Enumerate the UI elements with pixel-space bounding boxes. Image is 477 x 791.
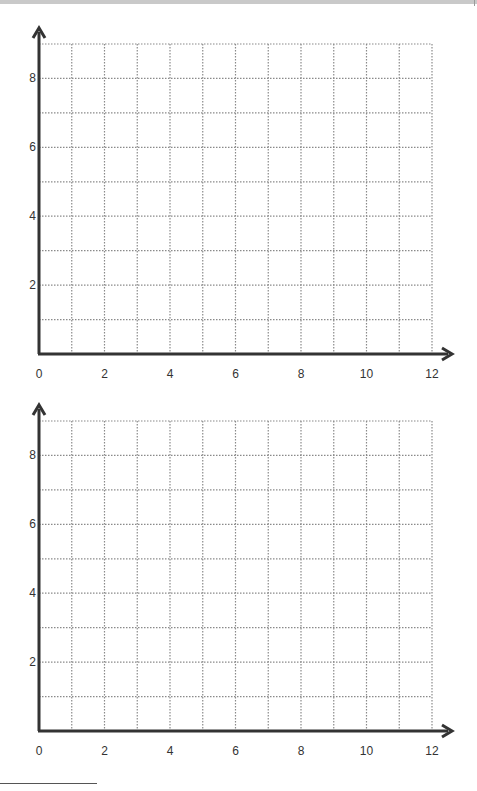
tick-labels: 0246810122468 xyxy=(29,448,439,758)
y-tick-label: 4 xyxy=(29,586,36,600)
x-tick-label: 4 xyxy=(167,744,174,758)
grid-lines xyxy=(39,421,432,731)
footnote-rule xyxy=(0,783,97,784)
x-tick-label: 2 xyxy=(101,744,108,758)
x-tick-label: 10 xyxy=(360,744,374,758)
x-tick-label: 8 xyxy=(298,744,305,758)
x-tick-label: 6 xyxy=(232,744,239,758)
x-tick-label: 12 xyxy=(425,744,439,758)
x-tick-label: 0 xyxy=(36,744,43,758)
y-tick-label: 2 xyxy=(29,655,36,669)
y-tick-label: 8 xyxy=(29,448,36,462)
y-tick-label: 6 xyxy=(29,517,36,531)
axes xyxy=(33,405,452,737)
coordinate-grid-bottom: 0246810122468 xyxy=(0,0,477,791)
